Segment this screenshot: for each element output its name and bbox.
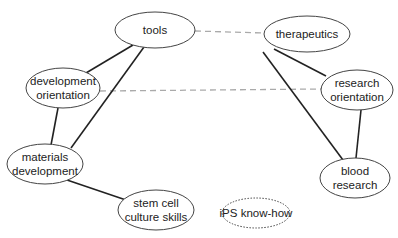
- edge-therapeutics-to-research-orientation: [274, 49, 326, 76]
- node-label: therapeutics: [276, 28, 339, 40]
- edge-tools-to-development-orientation: [86, 45, 133, 73]
- nodes-group: toolstherapeuticsdevelopmentorientationr…: [7, 12, 393, 230]
- node-ellipse: [7, 144, 83, 184]
- node-therapeutics: therapeutics: [264, 16, 350, 52]
- node-materials-development: materialsdevelopment: [7, 144, 83, 184]
- node-label: orientation: [330, 91, 384, 103]
- edge-research-orientation-to-blood-research: [356, 110, 361, 158]
- concept-diagram: toolstherapeuticsdevelopmentorientationr…: [0, 0, 398, 238]
- node-label: development: [12, 165, 79, 177]
- edge-materials-development-to-stem-cell-culture-skills: [67, 180, 126, 200]
- node-development-orientation: developmentorientation: [26, 68, 100, 108]
- node-label: stem cell: [133, 197, 178, 209]
- edge-therapeutics-to-blood-research: [263, 52, 343, 160]
- node-ips-know-how: iPS know-how: [220, 198, 294, 228]
- edge-development-orientation-to-materials-development: [51, 108, 58, 145]
- node-label: research: [333, 179, 378, 191]
- node-tools: tools: [115, 12, 195, 48]
- node-research-orientation: researchorientation: [321, 70, 393, 110]
- node-label: iPS know-how: [220, 207, 294, 219]
- node-ellipse: [118, 190, 194, 230]
- node-stem-cell-culture-skills: stem cellculture skills: [118, 190, 194, 230]
- node-blood-research: bloodresearch: [320, 158, 390, 198]
- node-label: tools: [143, 24, 168, 36]
- node-label: materials: [22, 151, 69, 163]
- node-label: research: [335, 77, 380, 89]
- node-ellipse: [26, 68, 100, 108]
- node-label: orientation: [36, 89, 90, 101]
- edges-group: [51, 31, 361, 200]
- edge-development-orientation-to-research-orientation: [100, 89, 321, 91]
- node-label: culture skills: [125, 211, 188, 223]
- node-label: development: [30, 75, 97, 87]
- node-ellipse: [321, 70, 393, 110]
- node-label: blood: [341, 165, 369, 177]
- edge-tools-to-therapeutics: [195, 31, 264, 33]
- node-ellipse: [320, 158, 390, 198]
